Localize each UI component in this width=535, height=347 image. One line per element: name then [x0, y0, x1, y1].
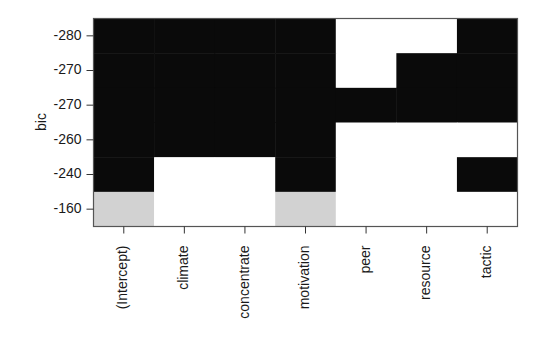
- x-tick-label: motivation: [296, 246, 312, 310]
- x-tick-label: (Intercept): [114, 246, 130, 310]
- y-tick-label: -270: [53, 61, 81, 77]
- heatmap-cell: [94, 88, 155, 123]
- heatmap-cell: [457, 53, 518, 88]
- heatmap-cell: [275, 123, 336, 158]
- heatmap-cell: [94, 157, 155, 192]
- heatmap-cell: [275, 157, 336, 192]
- heatmap-cells: [94, 19, 519, 228]
- heatmap-cell: [336, 88, 397, 123]
- x-tick-label: concentrate: [236, 245, 252, 318]
- x-tick-label: tactic: [478, 246, 494, 279]
- heatmap-cell: [396, 157, 457, 192]
- y-tick-label: -280: [53, 27, 81, 43]
- y-tick-label: -260: [53, 131, 81, 147]
- heatmap-cell: [94, 53, 155, 88]
- bic-subset-heatmap: -280-270-270-260-240-160 (Intercept)clim…: [0, 0, 535, 347]
- heatmap-cell: [154, 192, 215, 227]
- heatmap-cell: [94, 192, 155, 227]
- y-tick-label: -160: [53, 200, 81, 216]
- heatmap-cell: [396, 123, 457, 158]
- heatmap-cell: [275, 192, 336, 227]
- y-tick-label: -270: [53, 96, 81, 112]
- heatmap-cell: [457, 192, 518, 227]
- heatmap-cell: [336, 19, 397, 54]
- heatmap-cell: [457, 19, 518, 54]
- x-tick-label: resource: [417, 245, 433, 300]
- x-tick-label: climate: [175, 245, 191, 290]
- heatmap-cell: [396, 192, 457, 227]
- y-axis: -280-270-270-260-240-160: [53, 27, 93, 216]
- heatmap-cell: [94, 19, 155, 54]
- heatmap-cell: [215, 157, 276, 192]
- heatmap-cell: [215, 19, 276, 54]
- heatmap-cell: [215, 53, 276, 88]
- x-axis: (Intercept)climateconcentratemotivationp…: [114, 227, 493, 319]
- heatmap-cell: [336, 192, 397, 227]
- heatmap-cell: [457, 157, 518, 192]
- heatmap-cell: [336, 53, 397, 88]
- heatmap-cell: [396, 19, 457, 54]
- y-axis-label: bic: [33, 113, 49, 131]
- heatmap-cell: [215, 123, 276, 158]
- heatmap-cell: [457, 123, 518, 158]
- heatmap-cell: [215, 192, 276, 227]
- heatmap-cell: [275, 19, 336, 54]
- heatmap-cell: [154, 53, 215, 88]
- heatmap-cell: [457, 88, 518, 123]
- heatmap-cell: [215, 88, 276, 123]
- heatmap-cell: [154, 157, 215, 192]
- heatmap-cell: [154, 123, 215, 158]
- heatmap-cell: [94, 123, 155, 158]
- heatmap-cell: [275, 88, 336, 123]
- heatmap-cell: [396, 88, 457, 123]
- heatmap-cell: [154, 19, 215, 54]
- x-tick-label: peer: [357, 245, 373, 273]
- heatmap-cell: [275, 53, 336, 88]
- y-tick-label: -240: [53, 165, 81, 181]
- heatmap-cell: [396, 53, 457, 88]
- heatmap-cell: [336, 123, 397, 158]
- heatmap-cell: [336, 157, 397, 192]
- heatmap-cell: [154, 88, 215, 123]
